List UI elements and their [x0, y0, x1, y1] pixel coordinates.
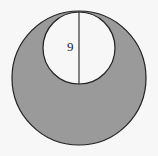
diagram-canvas: 9 [0, 0, 158, 156]
diameter-label: 9 [67, 39, 74, 54]
